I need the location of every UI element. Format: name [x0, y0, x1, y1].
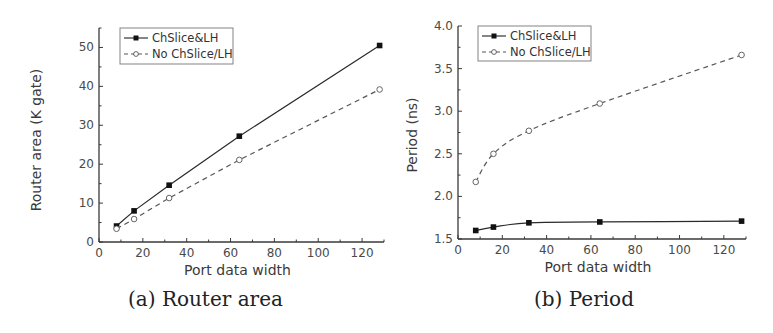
y-tick-label: 2.0 [434, 189, 453, 203]
y-tick-label: 0 [86, 235, 94, 249]
y-tick-label: 3.0 [434, 104, 453, 118]
y-tick-label: 3.5 [434, 62, 453, 76]
caption-period: (b) Period [534, 287, 634, 311]
chart-period: 0204060801001201.52.02.53.03.54.0Port da… [404, 19, 746, 275]
data-point [473, 228, 479, 234]
data-point [377, 43, 383, 49]
data-point [166, 182, 172, 188]
y-tick-label: 30 [79, 118, 94, 132]
data-point [114, 226, 120, 232]
y-axis-label: Period (ns) [404, 97, 420, 172]
data-point [739, 218, 745, 224]
data-point [237, 157, 243, 163]
x-tick-label: 0 [95, 246, 103, 260]
legend-entry-label: No ChSlice/LH [510, 45, 591, 59]
figure: 02040608010012001020304050Port data widt… [0, 0, 773, 333]
x-tick-label: 100 [668, 243, 691, 257]
y-tick-label: 40 [79, 79, 94, 93]
y-tick-label: 1.5 [434, 232, 453, 246]
caption-router-area: (a) Router area [128, 287, 283, 311]
x-tick-label: 40 [539, 243, 554, 257]
data-point [491, 151, 497, 157]
legend-entry-label: ChSlice&LH [510, 29, 576, 43]
data-point [473, 179, 479, 185]
data-point [739, 52, 745, 58]
x-tick-label: 80 [267, 246, 282, 260]
data-point [166, 195, 172, 201]
data-point [131, 216, 137, 222]
x-tick-label: 80 [628, 243, 643, 257]
series-chslice-lh [473, 218, 744, 233]
x-axis-label: Port data width [545, 259, 652, 275]
legend: ChSlice&LHNo ChSlice/LH [478, 26, 591, 61]
data-point [131, 208, 137, 214]
y-axis-label: Router area (K gate) [28, 69, 44, 212]
legend-entry-label: No ChSlice/LH [152, 47, 233, 61]
x-tick-label: 120 [351, 246, 374, 260]
x-tick-label: 40 [179, 246, 194, 260]
chart-router-area: 02040608010012001020304050Port data widt… [28, 28, 384, 278]
series-no-chslice-lh [114, 87, 383, 232]
y-tick-label: 50 [79, 40, 94, 54]
data-point [597, 101, 603, 107]
legend: ChSlice&LHNo ChSlice/LH [120, 28, 233, 64]
x-tick-label: 0 [454, 243, 462, 257]
x-tick-label: 100 [307, 246, 330, 260]
y-tick-label: 2.5 [434, 147, 453, 161]
y-tick-label: 20 [79, 157, 94, 171]
y-tick-label: 4.0 [434, 19, 453, 33]
series-no-chslice-lh [473, 52, 744, 185]
x-axis-label: Port data width [184, 262, 291, 278]
data-point [491, 224, 497, 230]
series-chslice-lh [114, 43, 383, 229]
data-point [526, 128, 532, 134]
x-tick-label: 20 [495, 243, 510, 257]
x-tick-label: 120 [712, 243, 735, 257]
legend-entry-label: ChSlice&LH [152, 31, 218, 45]
y-tick-label: 10 [79, 196, 94, 210]
data-point [237, 133, 243, 139]
data-point [377, 87, 383, 93]
x-tick-label: 60 [583, 243, 598, 257]
data-point [597, 219, 603, 225]
x-tick-label: 20 [135, 246, 150, 260]
x-tick-label: 60 [223, 246, 238, 260]
data-point [526, 220, 532, 226]
